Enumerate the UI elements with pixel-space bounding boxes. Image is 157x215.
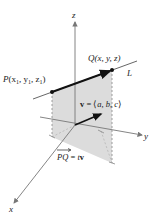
point-q xyxy=(110,68,114,72)
y-axis-label: y xyxy=(143,131,148,141)
pq-equals-tv-label: PQ = tv xyxy=(56,152,85,162)
line-l-label: L xyxy=(126,68,132,78)
shaded-plane xyxy=(52,70,112,163)
point-q-label: Q(x, y, z) xyxy=(88,53,121,63)
z-axis-label: z xyxy=(71,10,76,20)
x-axis-label: x xyxy=(8,204,13,214)
point-p xyxy=(50,90,54,94)
point-p-label: P(x1, y1, z1) xyxy=(2,74,46,85)
line-in-space-diagram: z y x P(x1, y1, z1) Q(x, y, z) L v = ⟨a,… xyxy=(0,0,157,215)
vector-v-label: v = ⟨a, b, c⟩ xyxy=(80,99,122,109)
x-axis xyxy=(14,125,75,203)
